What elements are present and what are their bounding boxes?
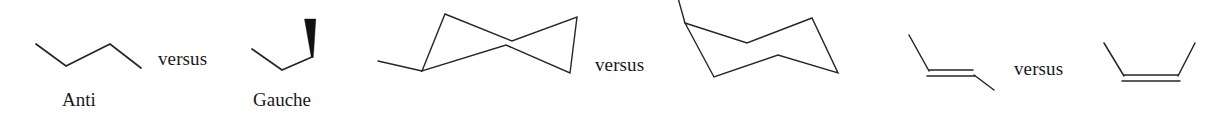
cis-left-methyl-bond bbox=[1104, 43, 1124, 76]
cis-right-methyl-bond bbox=[1178, 43, 1195, 76]
structure-cis-2-butene bbox=[0, 0, 1206, 118]
chemistry-comparison-figure: Anti versus Gauche versus versus bbox=[0, 0, 1206, 118]
